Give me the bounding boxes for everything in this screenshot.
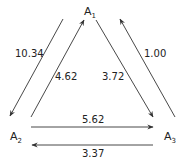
- transition-diagram: A1 A2 A3 10.34 4.62 3.72 1.00 5.62 3.37: [0, 0, 184, 163]
- edge-label-a3-a1: 1.00: [144, 48, 166, 59]
- edge-label-a1-a3: 3.72: [102, 71, 124, 82]
- edge-label-a1-a2: 10.34: [15, 48, 44, 59]
- node-a2: A2: [10, 130, 22, 145]
- edge-a1-a2: [10, 19, 63, 116]
- edge-a3-a1: [120, 19, 175, 117]
- edge-label-a2-a1: 4.62: [55, 71, 77, 82]
- node-a3: A3: [164, 130, 176, 145]
- edge-label-a2-a3: 5.62: [82, 114, 104, 125]
- edge-label-a3-a2: 3.37: [82, 148, 104, 159]
- node-a1: A1: [84, 5, 96, 20]
- edge-a1-a3: [96, 20, 153, 117]
- edge-a2-a1: [31, 20, 84, 117]
